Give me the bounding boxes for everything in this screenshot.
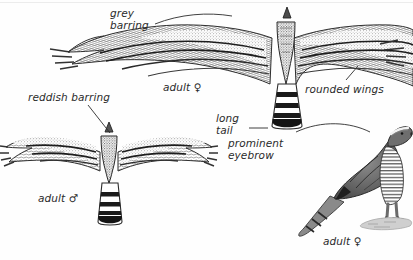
male-head — [105, 122, 113, 132]
perched-tail — [299, 196, 344, 236]
male-right-wing — [118, 137, 218, 171]
caption-adult-male-flight: adult ♂ — [38, 193, 78, 205]
leader-prominent-eyebrow — [296, 124, 370, 132]
female-right-wing — [294, 25, 413, 86]
figure-male-in-flight — [0, 122, 218, 225]
female-left-wing — [50, 25, 272, 84]
leader-reddish-barring — [88, 105, 110, 133]
perched-legs — [387, 203, 397, 217]
label-prominent-eyebrow: prominent eyebrow — [228, 138, 283, 161]
female-body — [277, 22, 295, 84]
caption-adult-female-perched: adult ♀ — [323, 236, 362, 248]
label-rounded-wings: rounded wings — [305, 84, 384, 96]
male-left-wing — [0, 137, 100, 171]
artwork-layer — [0, 0, 413, 260]
figure-female-perched — [299, 127, 413, 236]
illustration-plate: grey barring reddish barring rounded win… — [0, 0, 413, 260]
male-tail — [98, 183, 122, 225]
label-grey-barring: grey barring — [110, 8, 149, 31]
caption-adult-female-flight: adult ♀ — [163, 82, 202, 94]
female-head — [283, 7, 291, 18]
label-long-tail: long tail — [216, 113, 239, 136]
male-body — [101, 136, 117, 183]
female-tail — [272, 84, 302, 129]
perched-underparts — [380, 146, 403, 205]
leader-grey-barring — [155, 14, 232, 24]
label-reddish-barring: reddish barring — [28, 92, 110, 104]
figure-female-in-flight — [50, 7, 413, 129]
perched-eye — [401, 132, 404, 135]
